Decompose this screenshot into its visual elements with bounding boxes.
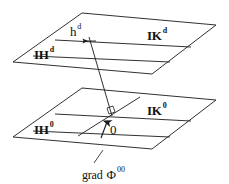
math-diagram: IHd IKd hd IH0 IK0 0 grad Φ00 xyxy=(0,0,229,184)
label-superscript: d xyxy=(163,26,167,35)
connector-lines xyxy=(89,37,115,116)
label-text: 0 xyxy=(110,122,116,137)
label-superscript: 00 xyxy=(117,165,125,174)
label-text: IK xyxy=(147,103,162,118)
upper-plane xyxy=(13,13,216,74)
label-text: h xyxy=(70,24,76,39)
upper-plane-horizontal-line xyxy=(55,40,191,47)
phi-symbol: Φ xyxy=(107,167,117,182)
normal-line-upper xyxy=(89,37,112,116)
diagram-canvas xyxy=(0,0,229,184)
label-text: grad xyxy=(82,168,103,182)
label-gradient: grad Φ00 xyxy=(82,166,124,182)
lower-plane-oblique-line xyxy=(78,97,140,136)
label-lower-plane-left: IH0 xyxy=(34,121,53,137)
label-origin: 0 xyxy=(110,121,116,137)
label-superscript: d xyxy=(77,22,81,31)
label-lower-plane-right: IK0 xyxy=(147,102,166,118)
grad-leader-line xyxy=(94,150,103,163)
label-superscript: d xyxy=(50,45,54,54)
gradient-arrow xyxy=(94,122,107,163)
upper-plane-second-line xyxy=(33,56,170,62)
lower-plane xyxy=(13,88,216,149)
label-upper-plane-right: IKd xyxy=(147,27,166,43)
grad-arrow-shaft xyxy=(101,122,107,138)
label-superscript: 0 xyxy=(50,120,54,129)
label-upper-plane-inner: hd xyxy=(70,23,80,39)
lower-plane-horizontal-line xyxy=(55,114,191,121)
label-superscript: 0 xyxy=(163,101,167,110)
label-text: IH xyxy=(34,47,49,62)
label-text: IK xyxy=(147,28,162,43)
label-text: IH xyxy=(34,122,49,137)
label-upper-plane-left: IHd xyxy=(34,46,53,62)
lower-plane-outline xyxy=(13,88,216,149)
